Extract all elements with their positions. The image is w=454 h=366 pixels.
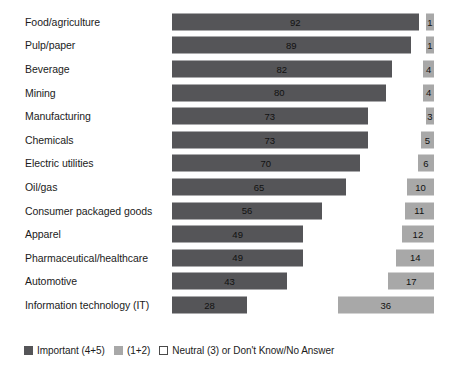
bar-value-important: 56 [242,206,253,216]
bar-value-low: 36 [380,300,391,310]
bar-important: 92 [172,13,419,30]
bar-low: 1 [426,37,434,54]
bar-low: 14 [396,249,434,266]
chart-row: Food/agriculture921 [0,10,454,34]
bar-value-low: 12 [413,229,424,239]
category-label: Apparel [25,228,61,240]
bar-important: 65 [172,178,346,195]
category-label: Information technology (IT) [25,299,149,311]
bar-value-important: 73 [265,135,276,145]
bar-value-low: 4 [426,64,431,74]
bar-important: 73 [172,131,368,148]
bar-value-important: 73 [265,111,276,121]
legend-label-neutral: Neutral (3) or Don't Know/No Answer [172,345,334,356]
chart-plot-area: Food/agriculture921Pulp/paper891Beverage… [0,10,454,330]
bar-low: 1 [426,13,434,30]
bar-value-low: 3 [427,111,432,121]
bar-low: 6 [418,155,434,172]
bar-low: 36 [338,296,434,313]
bar-important: 49 [172,249,303,266]
bar-low: 4 [423,84,434,101]
bar-value-important: 70 [261,159,272,169]
bar-value-important: 65 [254,182,265,192]
bar-low: 4 [423,60,434,77]
bar-value-important: 89 [286,41,297,51]
category-label: Manufacturing [25,110,91,122]
legend-item-low: (1+2) [114,345,150,356]
bar-value-important: 49 [232,253,243,263]
bar-low: 11 [405,202,434,219]
legend-label-low: (1+2) [127,345,150,356]
bar-low: 12 [402,226,434,243]
bar-value-important: 49 [232,229,243,239]
chart-row: Oil/gas6510 [0,175,454,199]
legend-swatch-important-icon [24,346,33,355]
chart-row: Consumer packaged goods5611 [0,199,454,223]
category-label: Pharmaceutical/healthcare [25,252,148,264]
bar-value-low: 10 [415,182,426,192]
legend-item-important: Important (4+5) [24,345,105,356]
bar-value-important: 82 [277,64,288,74]
bar-important: 28 [172,296,247,313]
bar-value-low: 4 [426,88,431,98]
bar-value-low: 1 [427,17,432,27]
bar-low: 17 [388,273,434,290]
chart-row: Pharmaceutical/healthcare4914 [0,246,454,270]
legend-swatch-neutral-icon [159,346,168,355]
chart-row: Chemicals735 [0,128,454,152]
bar-value-important: 43 [224,277,235,287]
category-label: Pulp/paper [25,39,75,51]
category-label: Oil/gas [25,181,57,193]
bar-value-low: 11 [414,206,424,216]
chart-row: Electric utilities706 [0,152,454,176]
legend-label-important: Important (4+5) [37,345,105,356]
bar-value-low: 14 [410,253,421,263]
bar-low: 3 [426,108,434,125]
horizontal-stacked-bar-chart: Food/agriculture921Pulp/paper891Beverage… [0,0,454,366]
bar-value-important: 28 [204,300,215,310]
bar-important: 70 [172,155,360,172]
bar-low: 5 [421,131,434,148]
bar-important: 56 [172,202,322,219]
bar-low: 10 [407,178,434,195]
bar-value-important: 80 [274,88,285,98]
category-label: Consumer packaged goods [25,205,152,217]
bar-important: 89 [172,37,411,54]
chart-row: Apparel4912 [0,222,454,246]
chart-row: Automotive4317 [0,270,454,294]
category-label: Beverage [25,63,70,75]
legend-swatch-low-icon [114,346,123,355]
legend-item-neutral: Neutral (3) or Don't Know/No Answer [159,345,334,356]
chart-row: Mining804 [0,81,454,105]
category-label: Electric utilities [25,157,94,169]
chart-row: Beverage824 [0,57,454,81]
bar-important: 80 [172,84,386,101]
chart-row: Information technology (IT)2836 [0,293,454,317]
category-label: Food/agriculture [25,16,100,28]
bar-important: 82 [172,60,392,77]
bar-value-important: 92 [290,17,301,27]
bar-value-low: 5 [425,135,430,145]
chart-row: Pulp/paper891 [0,34,454,58]
category-label: Chemicals [25,134,74,146]
bar-value-low: 1 [427,41,432,51]
bar-important: 43 [172,273,287,290]
bar-value-low: 6 [423,159,428,169]
chart-row: Manufacturing733 [0,104,454,128]
bar-important: 73 [172,108,368,125]
bar-value-low: 17 [406,277,417,287]
category-label: Automotive [25,275,77,287]
bar-important: 49 [172,226,303,243]
category-label: Mining [25,87,56,99]
chart-legend: Important (4+5) (1+2) Neutral (3) or Don… [0,340,454,360]
